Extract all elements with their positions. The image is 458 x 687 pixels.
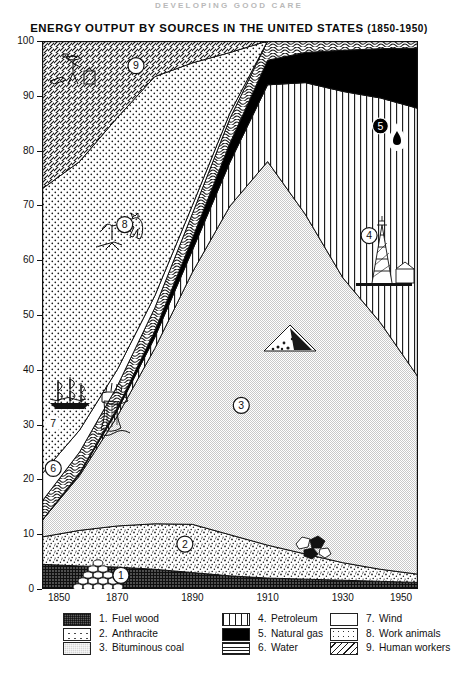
y-axis-tick-label: 70: [2, 200, 34, 210]
legend-label: 8.Work animals: [366, 627, 441, 642]
legend-index: 7.: [366, 612, 379, 627]
legend-swatch-petroleum: [222, 613, 250, 626]
callout-label: 3: [238, 399, 244, 411]
legend-label: 7.Wind: [366, 612, 402, 627]
legend-text: Fuel wood: [112, 613, 159, 624]
legend-label: 6.Water: [258, 641, 298, 656]
callout-label: 7: [50, 417, 56, 429]
callout-marker-8: 8: [117, 217, 133, 233]
callout-label: 2: [182, 538, 188, 550]
y-axis-tick-label: 60: [2, 255, 34, 265]
x-axis-tick-label: 1910: [248, 592, 288, 603]
x-axis-tick-label: 1870: [97, 592, 137, 603]
legend-label: 3.Bituminous coal: [99, 641, 184, 656]
callout-marker-2: 2: [177, 536, 193, 552]
legend-swatch-anthracite: [63, 628, 91, 641]
legend-label: 9.Human workers: [366, 641, 450, 656]
callout-marker-7: 7: [45, 416, 61, 432]
legend-text: Bituminous coal: [112, 642, 184, 653]
legend-label: 4.Petroleum: [258, 612, 317, 627]
callout-marker-3: 3: [233, 397, 249, 413]
x-axis-tick-label: 1950: [381, 592, 421, 603]
callout-label: 4: [366, 229, 372, 241]
callout-marker-9: 9: [128, 58, 144, 74]
y-axis-tick-label: 20: [2, 474, 34, 484]
chart-page: DEVELOPING GOOD CARE ENERGY OUTPUT BY SO…: [0, 0, 458, 687]
legend-index: 8.: [366, 627, 379, 642]
stacked-area-chart: 123456789: [42, 41, 418, 589]
callout-marker-1: 1: [113, 567, 129, 583]
y-axis-tick-label: 90: [2, 91, 34, 101]
y-axis-tick-label: 100: [2, 36, 34, 46]
y-axis-tick-label: 30: [2, 420, 34, 430]
legend-text: Wind: [379, 613, 402, 624]
legend-text: Natural gas: [271, 628, 323, 639]
y-axis-tick-mark: [37, 589, 42, 590]
y-axis-tick-label: 0: [2, 584, 34, 594]
legend-label: 2.Anthracite: [99, 627, 158, 642]
legend-index: 6.: [258, 641, 271, 656]
legend-label: 5.Natural gas: [258, 627, 323, 642]
legend-swatch-bituminous-coal: [63, 642, 91, 655]
callout-label: 5: [377, 120, 383, 132]
legend-label: 1.Fuel wood: [99, 612, 159, 627]
y-axis-tick-label: 40: [2, 365, 34, 375]
legend-index: 9.: [366, 641, 379, 656]
legend-swatch-wind: [330, 613, 358, 626]
chart-title-years: (1850-1950): [367, 23, 428, 34]
x-axis-tick-label: 1850: [39, 592, 79, 603]
legend-index: 1.: [99, 612, 112, 627]
legend-text: Human workers: [379, 642, 450, 653]
legend-text: Petroleum: [271, 613, 317, 624]
y-axis-tick-label: 50: [2, 310, 34, 320]
callout-marker-5: 5: [372, 118, 388, 134]
legend: 1.Fuel wood2.Anthracite3.Bituminous coal…: [0, 612, 458, 664]
x-axis-tick-label: 1890: [172, 592, 212, 603]
legend-swatch-human-workers: [330, 642, 358, 655]
legend-index: 2.: [99, 627, 112, 642]
y-axis-tick-label: 80: [2, 146, 34, 156]
callout-marker-4: 4: [361, 228, 377, 244]
legend-text: Work animals: [379, 628, 441, 639]
callout-marker-6: 6: [45, 460, 61, 476]
legend-text: Anthracite: [112, 628, 158, 639]
callout-label: 6: [50, 462, 56, 474]
callout-label: 1: [118, 569, 124, 581]
callout-label: 8: [122, 218, 128, 230]
legend-swatch-natural-gas: [222, 628, 250, 641]
legend-index: 4.: [258, 612, 271, 627]
legend-index: 5.: [258, 627, 271, 642]
legend-swatch-water: [222, 642, 250, 655]
chart-title-main: ENERGY OUTPUT BY SOURCES IN THE UNITED S…: [30, 22, 363, 34]
x-axis-tick-label: 1930: [323, 592, 363, 603]
legend-swatch-fuel-wood: [63, 613, 91, 626]
legend-swatch-work-animals: [330, 628, 358, 641]
running-head: DEVELOPING GOOD CARE: [0, 0, 458, 12]
callout-label: 9: [133, 59, 139, 71]
legend-index: 3.: [99, 641, 112, 656]
plot-area: 123456789: [42, 41, 418, 589]
legend-text: Water: [271, 642, 298, 653]
y-axis-tick-label: 10: [2, 529, 34, 539]
page-title: ENERGY OUTPUT BY SOURCES IN THE UNITED S…: [0, 22, 458, 34]
